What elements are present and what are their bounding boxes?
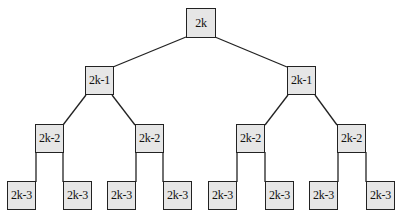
tree-node-level1-left: 2k-1 [85,66,114,95]
recursion-tree-diagram: 2k 2k-1 2k-1 2k-2 2k-2 2k-2 2k-2 2k-3 2k… [0,0,400,220]
edge-l1r-l2-3 [265,95,288,125]
tree-leaf-2: 2k-3 [63,181,92,210]
tree-node-level2-4: 2k-2 [337,124,366,153]
tree-leaf-6: 2k-3 [265,181,294,210]
tree-node-root: 2k [186,8,216,38]
edge-root-right [215,37,287,67]
edge-l1l-l2-1 [63,95,86,125]
edge-l1l-l2-2 [112,95,135,125]
tree-leaf-1: 2k-3 [7,181,36,210]
tree-leaf-8: 2k-3 [366,181,395,210]
tree-node-level2-3: 2k-2 [236,124,265,153]
tree-node-level2-1: 2k-2 [35,124,64,153]
edge-root-left [113,37,186,67]
tree-leaf-5: 2k-3 [208,181,237,210]
tree-leaf-7: 2k-3 [309,181,338,210]
tree-leaf-4: 2k-3 [163,181,192,210]
tree-node-level2-2: 2k-2 [135,124,164,153]
tree-node-level1-right: 2k-1 [287,66,316,95]
tree-leaf-3: 2k-3 [107,181,136,210]
edge-l1r-l2-4 [315,95,337,125]
